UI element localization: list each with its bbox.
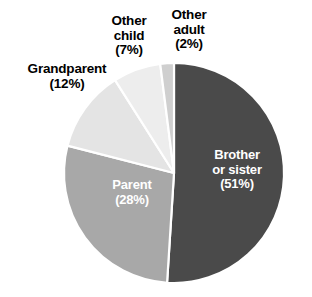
slice-label-parent: Parent (28%) — [94, 178, 170, 207]
slice-label-brother-or-sister: Brother or sister (51%) — [192, 148, 282, 192]
slice-label-other-child: Other child (7%) — [99, 14, 159, 58]
slice-label-grandparent: Grandparent (12%) — [6, 62, 128, 91]
slice-label-other-adult: Other adult (2%) — [158, 8, 220, 52]
pie-chart: Grandparent (12%) Other child (7%) Other… — [0, 0, 312, 297]
